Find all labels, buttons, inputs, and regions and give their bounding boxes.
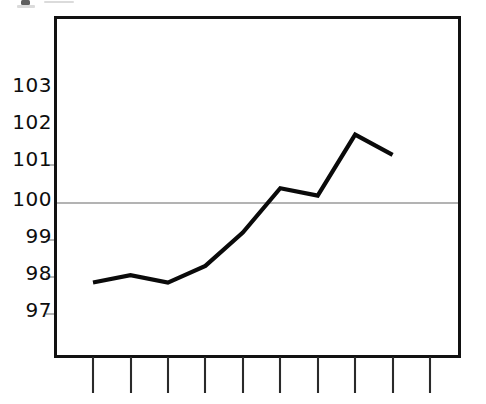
y-tick-label-99: 99: [26, 224, 52, 248]
y-tick-label-100: 100: [12, 187, 52, 211]
top-cutoff-artifact: [17, 0, 74, 8]
y-tick-label-102: 102: [12, 110, 52, 134]
chart-figure: 103 102 101 100 99 98 97: [0, 0, 486, 404]
y-tick-label-97: 97: [26, 298, 52, 322]
y-tick-label-103: 103: [12, 73, 52, 97]
y-axis-labels: 103 102 101 100 99 98 97: [12, 73, 52, 322]
plot-frame: [56, 18, 460, 357]
y-tick-label-101: 101: [12, 147, 52, 171]
data-series-line: [93, 135, 393, 283]
x-axis-ticks: [93, 357, 430, 393]
y-tick-label-98: 98: [26, 261, 52, 285]
line-chart: 103 102 101 100 99 98 97: [0, 0, 486, 404]
